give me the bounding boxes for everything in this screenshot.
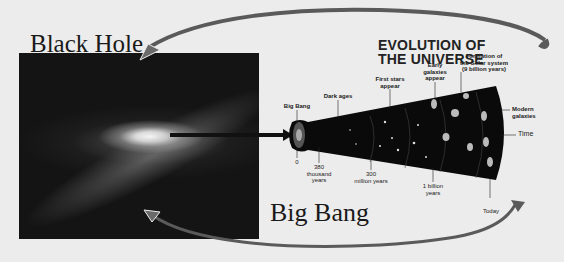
label-text: Dark ages bbox=[318, 93, 358, 100]
label-text: appear bbox=[370, 83, 410, 90]
label-text: million years bbox=[350, 178, 392, 185]
label-text: (9 billion years) bbox=[456, 66, 512, 73]
label-time: Time bbox=[518, 131, 548, 138]
label-dark-ages: Dark ages bbox=[318, 93, 358, 100]
big-bang-title: Big Bang bbox=[270, 198, 369, 228]
label-early-galaxies: Early galaxies appear bbox=[418, 62, 452, 82]
label-text: years bbox=[418, 190, 448, 197]
label-1-billion: 1 billion years bbox=[418, 183, 448, 196]
label-300-million: 300 million years bbox=[350, 171, 392, 184]
label-text: First stars bbox=[370, 76, 410, 83]
label-text: Big Bang bbox=[281, 103, 313, 110]
label-big-bang: Big Bang bbox=[281, 103, 313, 110]
label-modern-galaxies: Modern galaxies bbox=[512, 106, 552, 119]
label-today: Today bbox=[478, 208, 504, 215]
label-text: Time bbox=[518, 131, 548, 138]
top-curved-arrow bbox=[148, 10, 545, 48]
diagram-title-line1: EVOLUTION OF bbox=[378, 38, 485, 52]
label-380-thousand: 380 thousand years bbox=[304, 164, 334, 184]
label-text: 0 bbox=[290, 159, 304, 166]
label-text: galaxies bbox=[512, 113, 552, 120]
top-arrowhead-icon bbox=[140, 44, 160, 60]
label-first-stars: First stars appear bbox=[370, 76, 410, 89]
label-text: Today bbox=[478, 208, 504, 215]
label-zero: 0 bbox=[290, 159, 304, 166]
label-text: years bbox=[304, 177, 334, 184]
label-solar-system: Formation of the Solar system (9 billion… bbox=[456, 53, 512, 73]
label-text: appear bbox=[418, 75, 452, 82]
